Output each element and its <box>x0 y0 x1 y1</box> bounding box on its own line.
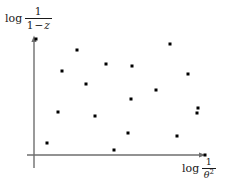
data-point <box>113 149 116 152</box>
data-point <box>61 70 64 73</box>
data-point <box>176 135 179 138</box>
data-point <box>130 98 133 101</box>
y-axis-label: log 1 1−z <box>5 6 52 30</box>
data-point <box>57 111 60 114</box>
y-axis-numerator: 1 <box>33 6 44 18</box>
y-axis-denominator: 1−z <box>25 19 52 31</box>
data-point <box>169 43 172 46</box>
scatter-plot-figure: log 1 1−z log 1 θ2 <box>0 0 229 186</box>
x-axis-log-operator: log <box>182 163 199 174</box>
data-point <box>127 132 130 135</box>
x-axis-denominator-exponent: 2 <box>209 167 213 175</box>
data-point <box>76 49 79 52</box>
x-axis-fraction: 1 θ2 <box>202 157 216 179</box>
y-axis-fraction: 1 1−z <box>25 6 52 30</box>
y-axis-denominator-variable: z <box>44 19 50 31</box>
data-point <box>155 89 158 92</box>
data-point <box>187 73 190 76</box>
data-point <box>131 65 134 68</box>
data-point <box>197 107 200 110</box>
x-axis-numerator: 1 <box>204 157 214 168</box>
x-axis-label: log 1 θ2 <box>182 157 216 179</box>
x-axis-denominator: θ2 <box>202 169 216 180</box>
data-point <box>105 63 108 66</box>
data-point <box>46 142 49 145</box>
data-point <box>196 112 199 115</box>
data-point <box>94 115 97 118</box>
data-point <box>35 38 38 41</box>
data-point <box>85 83 88 86</box>
y-axis-denominator-minus: − <box>33 19 44 31</box>
y-axis-log-operator: log <box>5 13 22 24</box>
